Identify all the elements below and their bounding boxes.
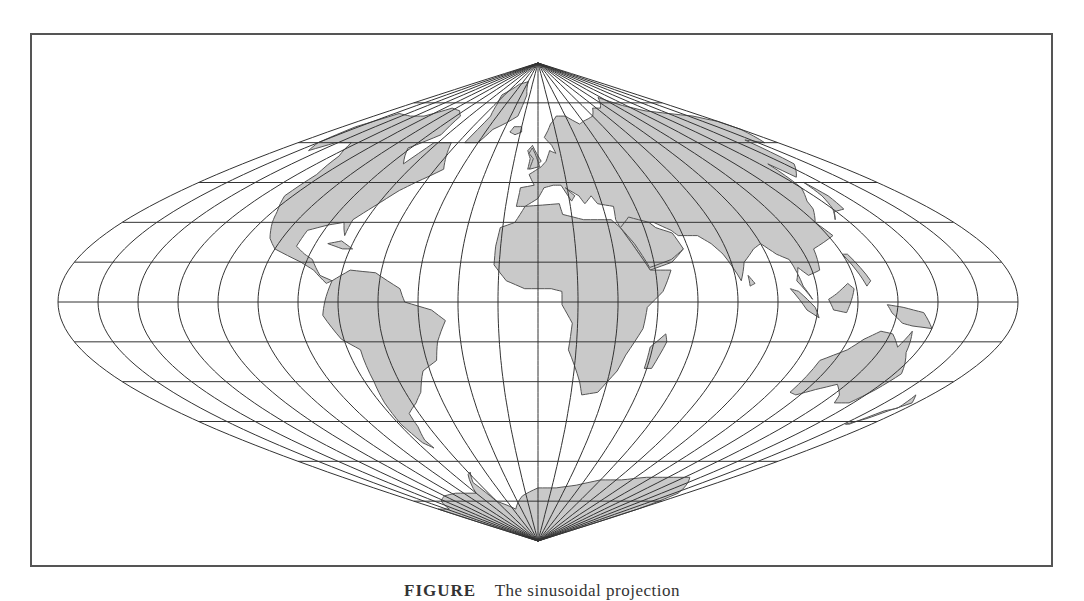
land-masses <box>270 82 932 541</box>
landmass-cuba <box>328 241 353 249</box>
landmass-philippines <box>842 254 870 286</box>
figure-caption-text: The sinusoidal projection <box>495 581 680 600</box>
graticule <box>58 63 1018 541</box>
landmass-sumatra <box>790 289 819 318</box>
landmass-north-america <box>270 108 461 283</box>
figure-caption: FIGURE The sinusoidal projection <box>0 581 1084 601</box>
landmass-sri-lanka <box>748 275 755 286</box>
landmass-madagascar <box>644 334 667 369</box>
landmass-borneo <box>829 283 855 312</box>
figure-label: FIGURE <box>404 581 476 600</box>
